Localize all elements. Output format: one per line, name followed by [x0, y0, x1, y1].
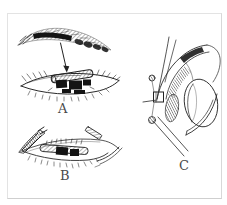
- lower-lash-ticks: [28, 156, 98, 168]
- figure-canvas: A B C: [0, 0, 227, 205]
- panel-a-illustration: [18, 28, 120, 101]
- arrow-icon: [61, 43, 70, 73]
- graft-strip-drawing: [85, 126, 102, 139]
- panel-b-label: B: [60, 169, 70, 183]
- surgical-illustration: [0, 0, 227, 205]
- upper-eyelid-implant-drawing: [21, 69, 120, 101]
- panel-c-label: C: [179, 159, 189, 173]
- eye-cross-section-drawing: [143, 37, 221, 156]
- panel-a-label: A: [58, 102, 67, 116]
- suture-clamp-cluster: [56, 80, 91, 95]
- eyebrow-drawing: [18, 28, 111, 53]
- panel-c-illustration: [143, 37, 221, 156]
- panel-b-illustration: [19, 126, 122, 168]
- closed-eyelid-implant-drawing: [19, 127, 122, 168]
